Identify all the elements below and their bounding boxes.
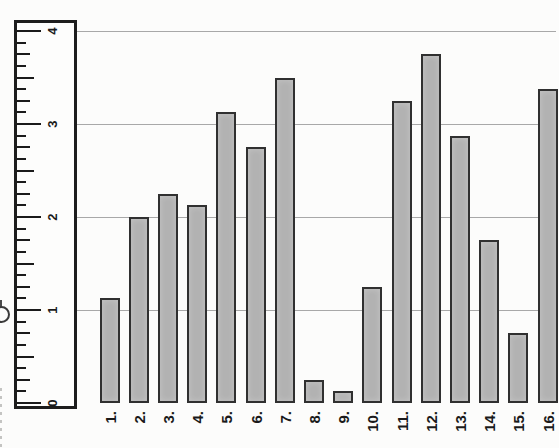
- x-label-15: 15.: [511, 411, 527, 447]
- bar-10: [362, 287, 382, 403]
- y-tick-label-3: 3: [45, 116, 59, 132]
- ruler-minor-tick: [17, 390, 26, 392]
- gridline-3: [77, 124, 556, 125]
- x-label-14: 14.: [482, 411, 498, 447]
- x-label-16: 16.: [541, 411, 557, 447]
- bar-8: [304, 380, 324, 403]
- ruler-minor-tick: [17, 111, 26, 113]
- y-tick-label-4: 4: [45, 23, 59, 39]
- ruler-minor-tick: [17, 297, 26, 299]
- ruler-major-tick: [17, 216, 41, 218]
- x-label-6: 6.: [249, 411, 265, 447]
- ruler-minor-tick: [17, 100, 30, 102]
- ruler-minor-tick: [17, 193, 30, 195]
- x-label-3: 3.: [161, 411, 177, 447]
- ruler-minor-tick: [17, 170, 34, 172]
- x-label-11: 11.: [395, 411, 411, 447]
- ruler-minor-tick: [17, 367, 26, 369]
- x-label-8: 8.: [307, 411, 323, 447]
- bar-15: [508, 333, 528, 403]
- ruler-major-tick: [17, 309, 41, 311]
- ruler-minor-tick: [17, 77, 34, 79]
- gridline-2: [77, 217, 556, 218]
- scanned-bar-chart-page: 01234 1.2.3.4.5.6.7.8.9.10.11.12.13.14.1…: [0, 0, 559, 448]
- bar-12: [421, 54, 441, 403]
- x-label-10: 10.: [365, 411, 381, 447]
- x-label-1: 1.: [103, 411, 119, 447]
- bar-16: [538, 89, 558, 403]
- ruler-minor-tick: [17, 379, 30, 381]
- ruler-minor-tick: [17, 228, 26, 230]
- clipped-text-fragment: [0, 306, 10, 323]
- ruler-minor-tick: [17, 321, 26, 323]
- page-edge-perforation-marks: [0, 388, 2, 448]
- ruler-minor-tick: [17, 65, 26, 67]
- x-label-5: 5.: [219, 411, 235, 447]
- x-label-7: 7.: [278, 411, 294, 447]
- bar-6: [246, 147, 266, 403]
- ruler-minor-tick: [17, 135, 26, 137]
- bar-3: [158, 194, 178, 403]
- ruler-minor-tick: [17, 146, 30, 148]
- bar-1: [100, 298, 120, 403]
- bar-11: [392, 101, 412, 403]
- clipped-text-fragment-stem: [0, 300, 2, 306]
- ruler-minor-tick: [17, 239, 30, 241]
- x-label-12: 12.: [424, 411, 440, 447]
- ruler-minor-tick: [17, 286, 30, 288]
- x-label-13: 13.: [453, 411, 469, 447]
- x-label-2: 2.: [132, 411, 148, 447]
- ruler-minor-tick: [17, 181, 26, 183]
- gridline-4: [77, 31, 556, 32]
- ruler-minor-tick: [17, 204, 26, 206]
- x-label-9: 9.: [336, 411, 352, 447]
- ruler-major-tick: [17, 30, 41, 32]
- ruler-minor-tick: [17, 263, 34, 265]
- ruler-minor-tick: [17, 53, 30, 55]
- y-tick-label-2: 2: [45, 209, 59, 225]
- ruler-minor-tick: [17, 332, 30, 334]
- bar-14: [479, 240, 499, 403]
- ruler-minor-tick: [17, 274, 26, 276]
- bar-7: [275, 78, 295, 404]
- bar-2: [129, 217, 149, 403]
- ruler-minor-tick: [17, 42, 26, 44]
- ruler-minor-tick: [17, 356, 34, 358]
- y-tick-label-0: 0: [45, 395, 59, 411]
- bar-4: [187, 205, 207, 403]
- bar-9: [333, 391, 353, 403]
- ruler-major-tick: [17, 402, 41, 404]
- bar-13: [450, 136, 470, 403]
- x-label-4: 4.: [190, 411, 206, 447]
- bar-5: [216, 112, 236, 403]
- ruler-major-tick: [17, 123, 41, 125]
- ruler-minor-tick: [17, 158, 26, 160]
- ruler-minor-tick: [17, 251, 26, 253]
- y-tick-label-1: 1: [45, 302, 59, 318]
- ruler-minor-tick: [17, 344, 26, 346]
- ruler-minor-tick: [17, 88, 26, 90]
